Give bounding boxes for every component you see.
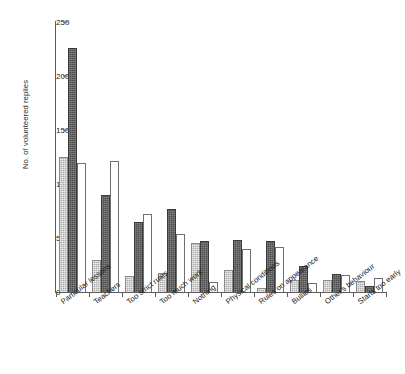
bar — [134, 222, 143, 292]
bar-group-bars — [320, 22, 353, 292]
x-tick-mark — [386, 292, 387, 297]
bar — [167, 209, 176, 292]
bar — [110, 161, 119, 292]
bar-group-bars — [122, 22, 155, 292]
bar-group-bars — [89, 22, 122, 292]
bar-group-bars — [254, 22, 287, 292]
bar — [323, 280, 332, 292]
plot-area — [56, 22, 386, 292]
bar-group — [254, 22, 287, 292]
x-tick-mark — [221, 292, 222, 297]
bar-group — [353, 22, 386, 292]
x-tick-mark — [320, 292, 321, 297]
bar-group-bars — [221, 22, 254, 292]
bar — [101, 195, 110, 292]
bar-group-bars — [155, 22, 188, 292]
bar — [68, 48, 77, 292]
bar-group — [155, 22, 188, 292]
x-tick-mark — [188, 292, 189, 297]
bar — [224, 270, 233, 292]
bar — [125, 276, 134, 292]
x-tick-mark — [287, 292, 288, 297]
bar — [59, 157, 68, 292]
bar — [77, 163, 86, 292]
bar-group — [89, 22, 122, 292]
figure-caption — [8, 362, 398, 372]
bar-group — [320, 22, 353, 292]
bar-group-bars — [353, 22, 386, 292]
bar-group — [221, 22, 254, 292]
x-tick-mark — [353, 292, 354, 297]
bar-group-bars — [56, 22, 89, 292]
bar-group-bars — [287, 22, 320, 292]
x-tick-mark — [122, 292, 123, 297]
x-tick-mark — [89, 292, 90, 297]
bar-chart: No. of volunteered replies 0501001502002… — [0, 0, 405, 374]
y-axis-label: No. of volunteered replies — [21, 40, 30, 210]
bar-group — [56, 22, 89, 292]
x-tick-mark — [155, 292, 156, 297]
bar-group — [188, 22, 221, 292]
x-tick-mark — [56, 292, 57, 297]
bar-group-bars — [188, 22, 221, 292]
bar-group — [287, 22, 320, 292]
bar-group — [122, 22, 155, 292]
x-tick-mark — [254, 292, 255, 297]
